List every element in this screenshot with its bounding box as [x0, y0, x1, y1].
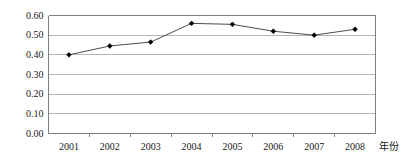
data-point-marker	[107, 44, 112, 49]
data-line	[69, 23, 355, 54]
data-point-marker	[312, 33, 317, 38]
line-chart: 0.600.500.400.300.200.100.00 20012002200…	[0, 0, 405, 162]
y-axis-tick-label: 0.60	[14, 11, 44, 21]
y-axis-tick-label: 0.20	[14, 89, 44, 99]
y-axis-tick-label: 0.40	[14, 50, 44, 60]
y-axis-tick-label: 0.50	[14, 30, 44, 40]
data-point-marker	[189, 21, 194, 26]
x-axis-tick-label: 2003	[131, 142, 171, 152]
x-axis-tick-label: 2004	[172, 142, 212, 152]
series-markers-group	[67, 21, 358, 57]
y-axis-tick-label: 0.10	[14, 109, 44, 119]
data-point-marker	[148, 40, 153, 45]
data-point-marker	[353, 27, 358, 32]
x-axis-tick-label: 2001	[49, 142, 89, 152]
x-axis-tick-label: 2008	[335, 142, 375, 152]
x-axis-tick-label: 2007	[294, 142, 334, 152]
x-axis-tick-label: 2006	[253, 142, 293, 152]
y-axis-tick-label: 0.00	[14, 129, 44, 139]
data-point-marker	[230, 22, 235, 27]
x-axis-tick-label: 2002	[90, 142, 130, 152]
x-axis-label: 年份	[379, 142, 399, 152]
data-point-marker	[271, 29, 276, 34]
y-axis-tick-label: 0.30	[14, 70, 44, 80]
x-axis-tick-label: 2005	[212, 142, 252, 152]
data-point-marker	[67, 52, 72, 57]
series-line-group	[69, 23, 355, 54]
chart-canvas	[0, 0, 405, 162]
